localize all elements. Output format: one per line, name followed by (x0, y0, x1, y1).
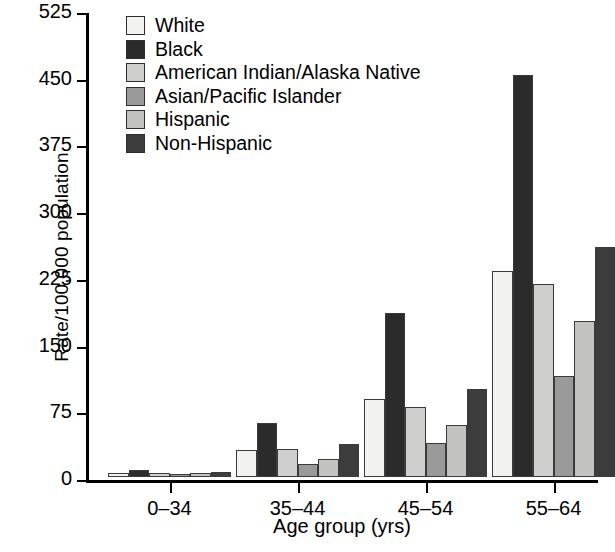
legend-item: Non-Hispanic (126, 132, 456, 156)
bar (595, 247, 615, 477)
bar (554, 376, 575, 477)
legend-item: Asian/Pacific Islander (126, 85, 456, 109)
bar (190, 473, 211, 477)
x-axis-label: Age group (yrs) (86, 515, 598, 538)
bar (149, 473, 170, 477)
legend-item-label: American Indian/Alaska Native (155, 63, 421, 83)
y-tick: 450 (77, 80, 86, 82)
y-tick-label: 75 (50, 400, 72, 423)
legend-swatch-icon (126, 16, 145, 35)
legend-item-label: Non-Hispanic (155, 134, 272, 154)
bar (533, 284, 554, 477)
bar (492, 271, 513, 477)
y-tick: 300 (77, 213, 86, 215)
y-tick-label: 375 (39, 133, 72, 156)
y-tick-label: 450 (39, 67, 72, 90)
bar (257, 423, 278, 477)
bar (426, 443, 447, 477)
x-axis-line (86, 480, 598, 483)
y-tick: 525 (77, 13, 86, 15)
legend-swatch-icon (126, 40, 145, 59)
y-tick-label: 525 (39, 0, 72, 23)
y-tick-label: 150 (39, 334, 72, 357)
bar (574, 321, 595, 477)
bar (364, 399, 385, 477)
legend-item: Black (126, 38, 456, 62)
x-tick (170, 483, 172, 493)
y-tick: 225 (77, 280, 86, 282)
x-tick (298, 483, 300, 493)
x-tick (426, 483, 428, 493)
bar (170, 474, 191, 477)
y-axis-line (86, 13, 89, 481)
x-tick (554, 483, 556, 493)
y-tick: 375 (77, 146, 86, 148)
bar (277, 449, 298, 477)
bar (108, 473, 129, 477)
bar (129, 470, 150, 477)
y-tick-label: 225 (39, 267, 72, 290)
legend-swatch-icon (126, 87, 145, 106)
y-tick-label: 0 (61, 467, 72, 490)
legend-item-label: Hispanic (155, 110, 230, 130)
legend-item-label: Asian/Pacific Islander (155, 87, 341, 107)
bar (513, 75, 534, 477)
y-tick: 75 (77, 413, 86, 415)
bar (446, 425, 467, 477)
legend-item: American Indian/Alaska Native (126, 61, 456, 85)
bar (339, 444, 360, 477)
legend-item-label: Black (155, 40, 203, 60)
bar (405, 407, 426, 477)
y-tick: 0 (77, 480, 86, 482)
bar (385, 313, 406, 477)
bar (211, 472, 232, 477)
bar (467, 389, 488, 477)
bar (236, 450, 257, 477)
legend-swatch-icon (126, 134, 145, 153)
legend-item-label: White (155, 16, 205, 36)
legend-swatch-icon (126, 110, 145, 129)
bar (298, 464, 319, 477)
y-tick-label: 300 (39, 200, 72, 223)
y-tick: 150 (77, 347, 86, 349)
bar (318, 459, 339, 477)
legend-swatch-icon (126, 63, 145, 82)
chart-legend: WhiteBlackAmerican Indian/Alaska NativeA… (126, 14, 456, 155)
legend-item: White (126, 14, 456, 38)
legend-item: Hispanic (126, 108, 456, 132)
